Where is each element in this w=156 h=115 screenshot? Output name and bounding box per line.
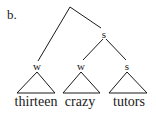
triangle-thirteen (17, 72, 55, 93)
edge-root-w-left (38, 7, 70, 61)
triangle-tutors (109, 72, 147, 93)
leaf-word-crazy: crazy (65, 95, 95, 109)
metrical-tree-figure: b. s w w s thirteen crazy tutors (0, 0, 156, 115)
edge-s-upper-s-right (106, 39, 126, 60)
node-s-right: s (125, 61, 129, 72)
node-w-mid: w (77, 61, 85, 72)
node-w-left: w (33, 61, 41, 72)
edge-s-upper-w-mid (83, 39, 103, 60)
node-s-upper: s (102, 29, 106, 40)
triangle-crazy (63, 72, 100, 93)
leaf-word-tutors: tutors (113, 95, 145, 109)
leaf-word-thirteen: thirteen (15, 95, 58, 109)
edge-root-s-upper (70, 7, 101, 28)
